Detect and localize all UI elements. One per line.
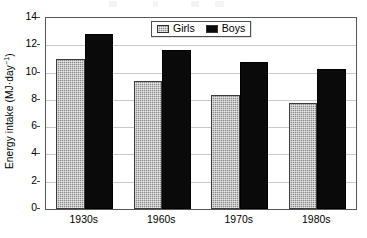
bar-boys-1980s (317, 69, 346, 209)
girls-swatch-icon (157, 25, 169, 33)
bar-chart-figure: Energy intake (MJ·day−1) 02468101214 Gir… (0, 0, 367, 238)
y-axis-tick-labels: 02468101214 (18, 0, 40, 238)
x-axis-tick-label: 1960s (147, 214, 175, 226)
bar-boys-1930s (85, 34, 114, 209)
bar-boys-1970s (240, 62, 269, 209)
y-axis-tick-label: 10 (25, 67, 37, 77)
y-axis-tick-mark (37, 153, 40, 154)
bar-girls-1970s (211, 95, 240, 209)
bar-group (46, 18, 124, 209)
y-axis-tick-mark (37, 208, 40, 209)
bar-group (124, 18, 202, 209)
legend-label-girls: Girls (173, 23, 195, 34)
y-axis-title: Energy intake (MJ·day−1) (0, 0, 18, 222)
bar-group (201, 18, 279, 209)
bar-group (279, 18, 357, 209)
y-axis-tick-mark (37, 181, 40, 182)
plot-area (45, 17, 357, 210)
y-axis-title-exponent: −1 (3, 57, 10, 65)
y-axis-tick-mark (37, 44, 40, 45)
y-axis-title-main: Energy intake (MJ·day (4, 65, 15, 169)
legend-item-girls: Girls (157, 23, 195, 34)
legend: Girls Boys (151, 21, 251, 37)
x-axis-tick-label: 1970s (225, 214, 253, 226)
y-axis-tick-label: 14 (25, 12, 37, 22)
cropped-text-artifact (95, 1, 275, 7)
x-axis-tick-labels: 1930s1960s1970s1980s (45, 214, 357, 232)
boys-swatch-icon (206, 25, 218, 33)
legend-item-boys: Boys (206, 23, 246, 34)
bar-girls-1960s (134, 81, 163, 209)
y-axis-tick-mark (37, 17, 40, 18)
y-axis-tick-label: 12 (25, 39, 37, 49)
y-axis-tick-mark (37, 99, 40, 100)
x-axis-tick-label: 1980s (302, 214, 330, 226)
bar-girls-1980s (289, 103, 318, 209)
bar-girls-1930s (56, 59, 85, 209)
legend-label-boys: Boys (222, 23, 246, 34)
bar-boys-1960s (162, 50, 191, 209)
y-axis-tick-mark (37, 72, 40, 73)
y-axis-tick-mark (37, 126, 40, 127)
y-axis-title-tail: ) (4, 53, 15, 57)
x-axis-tick-label: 1930s (70, 214, 98, 226)
